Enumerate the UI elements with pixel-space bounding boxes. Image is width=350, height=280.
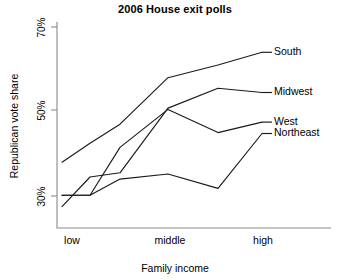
plot-area [0, 0, 350, 280]
series-line-northeast [62, 134, 262, 196]
series-line-midwest [62, 88, 262, 206]
axis-frame [57, 22, 331, 228]
chart-container: 2006 House exit polls Republican vote sh… [0, 0, 350, 280]
series-line-west [62, 109, 262, 195]
series-lines-group [62, 52, 272, 206]
series-line-south [62, 52, 262, 162]
